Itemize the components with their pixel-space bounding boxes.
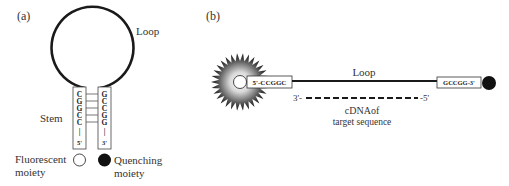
molecular-beacon-diagram: (a) Loop C G G C C | 5' G C C (0, 0, 509, 186)
svg-text:3': 3' (102, 139, 107, 146)
quencher-icon (482, 76, 496, 90)
hairpin-loop (51, 7, 133, 88)
panel-a-label: (a) (17, 9, 30, 23)
panel-b: (b) 5'-CCGGC Loop GCCGG-3' 3'- -5' cDNAo… (206, 9, 496, 127)
quenching-label-line1: Quenching (114, 154, 163, 166)
target-label-line2: target sequence (333, 117, 392, 127)
fluorescent-label-line2: moiety (15, 166, 46, 178)
base-pair-bonds (86, 94, 98, 122)
stem-label: Stem (40, 112, 63, 124)
fluorophore-icon (74, 154, 86, 166)
quencher-icon (98, 154, 111, 167)
target-3prime-label: 3'- (293, 93, 302, 103)
loop-label: Loop (136, 25, 160, 37)
left-arm-sequence: 5'-CCGGC (253, 79, 287, 87)
fluorescent-label-line1: Fluorescent (15, 153, 66, 165)
svg-text:G: G (102, 118, 108, 127)
fluorophore-icon (234, 76, 247, 89)
loop-label-b: Loop (352, 66, 376, 78)
target-5prime-label: -5' (420, 93, 429, 103)
panel-b-label: (b) (206, 9, 220, 23)
svg-text:C: C (77, 118, 82, 127)
panel-a: (a) Loop C G G C C | 5' G C C (15, 7, 163, 179)
quenching-label-line2: moiety (114, 167, 145, 179)
right-arm-sequence: GCCGG-3' (443, 79, 475, 86)
svg-text:5': 5' (77, 139, 82, 146)
target-label-line1: cDNAof (345, 105, 380, 116)
